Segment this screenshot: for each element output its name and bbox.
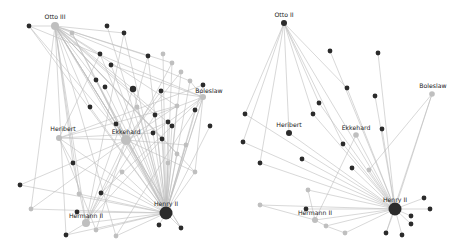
network-node[interactable] — [166, 161, 171, 166]
right-network-panel: Otto II Boleslaw Heribert Ekkehard Herma… — [230, 0, 460, 249]
network-edge — [59, 138, 166, 213]
network-edge — [302, 159, 395, 209]
network-node[interactable] — [120, 170, 125, 175]
network-node[interactable] — [77, 192, 82, 197]
label-ekkehard: Ekkehard — [112, 128, 141, 135]
network-node[interactable] — [345, 86, 350, 91]
network-node[interactable] — [422, 196, 427, 201]
node-hermann[interactable] — [312, 217, 318, 223]
network-node[interactable] — [135, 105, 140, 110]
network-node[interactable] — [311, 112, 316, 117]
network-node[interactable] — [18, 183, 23, 188]
network-node[interactable] — [27, 24, 32, 29]
label-hermann: Hermann II — [69, 212, 103, 219]
network-node[interactable] — [367, 168, 372, 173]
label-otto: Otto III — [45, 13, 66, 20]
network-node[interactable] — [188, 79, 193, 84]
network-node[interactable] — [241, 140, 246, 145]
node-otto[interactable] — [281, 20, 287, 26]
network-node[interactable] — [153, 113, 158, 118]
network-node[interactable] — [130, 86, 136, 92]
network-edge — [260, 23, 284, 163]
network-edge — [319, 103, 395, 209]
node-heribert[interactable] — [286, 130, 292, 136]
network-node[interactable] — [380, 127, 385, 132]
network-node[interactable] — [300, 157, 305, 162]
network-node[interactable] — [184, 143, 189, 148]
network-node[interactable] — [157, 223, 162, 228]
network-node[interactable] — [373, 94, 378, 99]
network-node[interactable] — [179, 226, 184, 231]
network-edge — [326, 226, 345, 233]
left-network-graph: Otto III Boleslaw Heribert Ekkehard Herm… — [0, 0, 230, 249]
network-edge — [369, 94, 432, 170]
network-node[interactable] — [161, 52, 166, 57]
network-node[interactable] — [208, 124, 213, 129]
network-node[interactable] — [71, 161, 76, 166]
network-node[interactable] — [159, 89, 164, 94]
network-node[interactable] — [328, 49, 333, 54]
network-node[interactable] — [175, 104, 180, 109]
network-node[interactable] — [409, 222, 414, 227]
network-node[interactable] — [114, 122, 119, 127]
network-node[interactable] — [343, 231, 348, 236]
network-node[interactable] — [105, 24, 110, 29]
network-node[interactable] — [114, 234, 119, 239]
network-edge — [245, 23, 284, 114]
network-node[interactable] — [146, 54, 151, 59]
node-boleslaw[interactable] — [429, 91, 435, 97]
network-node[interactable] — [109, 63, 114, 68]
network-node[interactable] — [179, 70, 184, 75]
network-edge — [55, 26, 155, 115]
node-ekkehard[interactable] — [353, 132, 359, 138]
node-heribert[interactable] — [56, 135, 62, 141]
node-henry[interactable] — [389, 203, 402, 216]
network-edge — [96, 213, 166, 230]
label-heribert: Heribert — [276, 121, 302, 128]
network-node[interactable] — [324, 224, 329, 229]
network-node[interactable] — [94, 228, 99, 233]
network-node[interactable] — [317, 101, 322, 106]
network-node[interactable] — [428, 207, 433, 212]
network-node[interactable] — [384, 231, 389, 236]
network-edge — [284, 23, 313, 114]
right-network-graph: Otto II Boleslaw Heribert Ekkehard Herma… — [230, 0, 460, 249]
network-node[interactable] — [70, 31, 75, 36]
network-node[interactable] — [175, 152, 180, 157]
label-boleslaw: Boleslaw — [419, 82, 446, 89]
network-node[interactable] — [341, 142, 346, 147]
network-node[interactable] — [64, 233, 69, 238]
network-node[interactable] — [98, 52, 103, 57]
network-node[interactable] — [166, 120, 171, 125]
network-node[interactable] — [99, 191, 104, 196]
network-node[interactable] — [160, 137, 165, 142]
network-node[interactable] — [243, 112, 248, 117]
network-node[interactable] — [258, 203, 263, 208]
label-ekkehard: Ekkehard — [342, 124, 371, 131]
network-node[interactable] — [29, 207, 34, 212]
network-node[interactable] — [400, 233, 405, 238]
network-node[interactable] — [350, 166, 355, 171]
network-node[interactable] — [88, 105, 93, 110]
network-node[interactable] — [103, 85, 108, 90]
node-otto[interactable] — [51, 22, 59, 30]
network-edge — [55, 26, 172, 126]
network-node[interactable] — [409, 214, 414, 219]
network-node[interactable] — [193, 170, 198, 175]
network-node[interactable] — [151, 131, 156, 136]
network-edge — [284, 23, 347, 88]
network-node[interactable] — [376, 51, 381, 56]
label-hermann: Hermann II — [298, 209, 332, 216]
network-node[interactable] — [258, 161, 263, 166]
network-edge — [31, 26, 55, 209]
network-node[interactable] — [193, 108, 198, 113]
node-hermann[interactable] — [82, 219, 90, 227]
node-ekkehard[interactable] — [121, 135, 131, 145]
node-henry[interactable] — [160, 207, 173, 220]
node-boleslaw[interactable] — [200, 94, 206, 100]
network-node[interactable] — [306, 188, 311, 193]
network-node[interactable] — [170, 61, 175, 66]
network-node[interactable] — [122, 31, 127, 36]
network-node[interactable] — [94, 78, 99, 83]
network-node[interactable] — [170, 124, 175, 129]
